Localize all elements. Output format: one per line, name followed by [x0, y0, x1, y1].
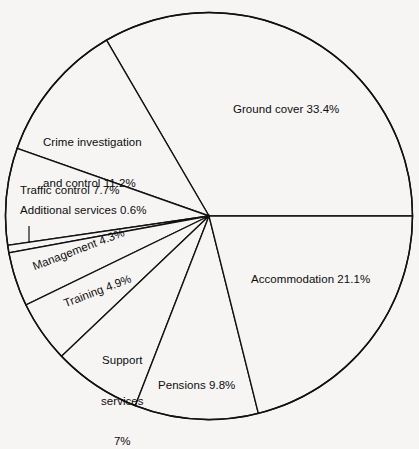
slice-label-additional-services: Additional services 0.6%	[20, 204, 147, 218]
slice-label-crime-investigation: Crime investigation and control 11.2%	[43, 109, 142, 217]
slice-label-accommodation: Accommodation 21.1%	[251, 273, 370, 287]
slice-label-support-services: Support services 7%	[101, 327, 144, 449]
slice-label-support-line1: Support	[101, 354, 144, 368]
slice-label-traffic-control: Traffic control 7.7%	[20, 184, 119, 198]
slice-label-crime-line1: Crime investigation	[43, 136, 142, 150]
slice-label-support-line3: 7%	[101, 435, 144, 449]
slice-label-support-line2: services	[101, 395, 144, 409]
slice-label-ground-cover: Ground cover 33.4%	[233, 103, 339, 117]
slice-label-pensions: Pensions 9.8%	[158, 379, 235, 393]
